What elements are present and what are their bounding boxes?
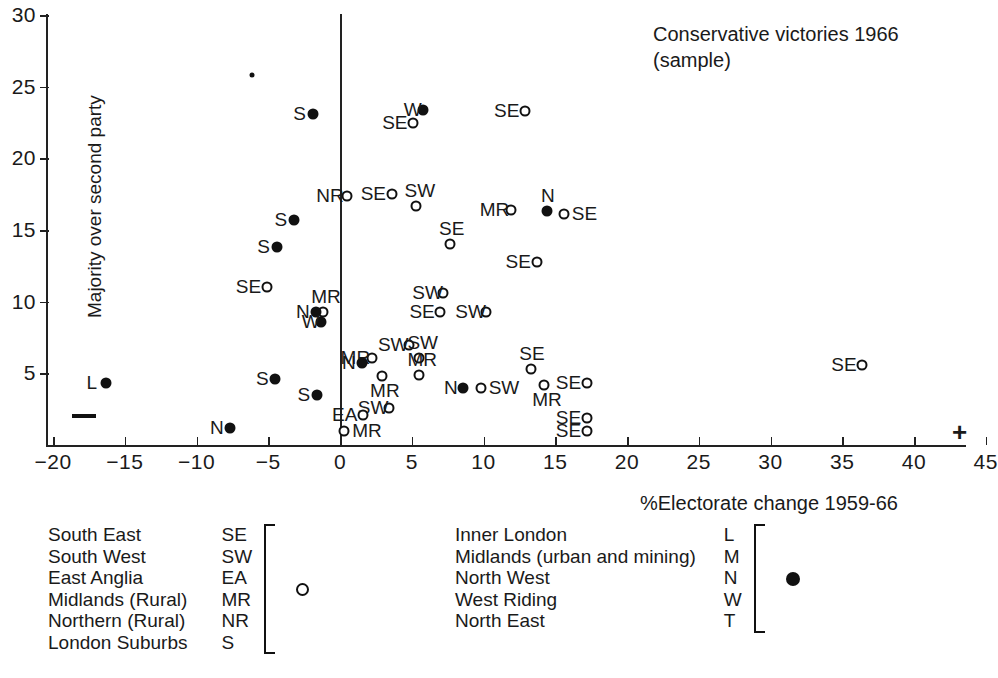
x-tick [197,437,199,445]
data-point [270,374,281,385]
legend-open-names: South EastSouth WestEast AngliaMidlands … [48,524,187,653]
legend-region-name: Northern (Rural) [48,610,187,632]
filled-circle-icon [312,389,323,400]
open-circle-icon [386,189,397,200]
data-point-label: SE [506,251,531,273]
y-tick [40,230,49,232]
data-point-label: SW [489,377,520,399]
legend-region-name: North East [455,610,696,632]
data-point [445,239,456,250]
x-tick [340,437,342,445]
data-point-label: S [257,236,270,258]
y-tick-label: 5 [0,361,36,385]
legend-open-bracket [264,524,280,654]
legend-open-marker [296,583,309,596]
data-point-label: SE [556,420,581,442]
open-circle-icon [581,378,592,389]
data-point [541,206,552,217]
legend-region-name: South West [48,546,187,568]
y-tick-label: 20 [0,146,36,170]
data-point-label: SE [439,218,464,240]
data-point [581,378,592,389]
open-circle-icon [413,369,424,380]
data-point-label: SE [831,354,856,376]
open-circle-icon [445,239,456,250]
legend-region-code: M [724,546,742,568]
legend-filled-names: Inner LondonMidlands (urban and mining)N… [455,524,696,632]
data-point-label: MR [311,286,341,308]
data-point-label: L [87,372,98,394]
data-point-label: NR [316,185,343,207]
x-tick-label: −5 [256,450,281,474]
negative-axis-marker [72,414,96,418]
data-point-label: SE [361,183,386,205]
data-point-label: SW [405,180,436,202]
open-circle-icon [581,425,592,436]
legend-region-name: London Suburbs [48,632,187,654]
x-tick-label: 30 [758,450,782,474]
open-circle-icon [475,382,486,393]
y-tick-label: 15 [0,218,36,242]
y-tick-label: 30 [0,3,36,27]
data-point-label: SE [409,301,434,323]
legend-region-code: L [724,524,742,546]
y-tick-label: 25 [0,75,36,99]
positive-axis-marker: + [952,419,967,445]
data-point [531,256,542,267]
legend-region-name: North West [455,567,696,589]
filled-circle-icon [356,358,367,369]
data-point-label: S [293,103,306,125]
x-axis-line [46,445,966,447]
x-tick [986,437,988,445]
data-point [261,282,272,293]
legend-region-code: N [724,567,742,589]
data-point [475,382,486,393]
filled-circle-icon [289,214,300,225]
data-point [101,378,112,389]
data-point [520,106,531,117]
data-point-label: SE [572,203,597,225]
data-point [558,209,569,220]
legend-region-code: W [724,589,742,611]
data-point [271,242,282,253]
data-point [386,189,397,200]
legend-group-open: South EastSouth WestEast AngliaMidlands … [48,524,309,654]
x-tick-label: 0 [334,450,346,474]
open-circle-icon [558,209,569,220]
legend-region-code: NR [221,610,252,632]
data-point-label: S [275,209,288,231]
x-tick [914,437,916,445]
y-tick-label: 10 [0,290,36,314]
data-point [581,425,592,436]
legend-region-name: Midlands (urban and mining) [455,546,696,568]
legend-region-name: Inner London [455,524,696,546]
x-tick-label: 10 [471,450,495,474]
data-point [581,412,592,423]
data-point-label: MR [480,199,510,221]
data-point-label: MR [407,349,437,371]
legend-region-code: SW [221,546,252,568]
open-circle-icon [339,425,350,436]
filled-circle-icon [271,242,282,253]
filled-circle-icon [224,422,235,433]
open-circle-icon [520,106,531,117]
legend-region-code: SE [221,524,252,546]
open-circle-icon [411,200,422,211]
data-point-label: S [256,368,269,390]
x-tick-label: 5 [406,450,418,474]
filled-circle-icon [541,206,552,217]
y-tick [40,302,49,304]
open-circle-icon [531,256,542,267]
x-tick-label: 40 [902,450,926,474]
x-tick [842,437,844,445]
legend-region-code: S [221,632,252,654]
data-point [411,200,422,211]
x-tick [268,437,270,445]
data-point-label: SE [519,343,544,365]
x-tick-label: 35 [830,450,854,474]
x-tick [412,437,414,445]
x-tick-label: 25 [687,450,711,474]
data-point-label: SW [378,334,409,356]
data-point [525,364,536,375]
